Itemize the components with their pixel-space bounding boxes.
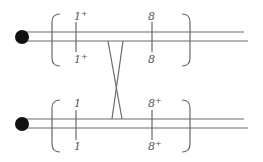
top-source-dot-icon — [15, 30, 29, 44]
top-right-bracket — [182, 14, 190, 66]
exchange-line-a — [108, 41, 122, 119]
top-left-bracket — [52, 14, 60, 66]
top-left-upper-label: 1+ — [74, 9, 88, 23]
top-right-lower-label: 8 — [148, 53, 155, 66]
bottom-source-dot-icon — [15, 117, 29, 131]
bottom-left-lower-label: 1 — [74, 140, 81, 153]
top-right-upper-label: 8 — [148, 10, 155, 23]
bottom-right-lower-label: 8+ — [148, 139, 162, 153]
crossed-exchange-lines — [108, 41, 123, 119]
bottom-right-bracket — [182, 100, 190, 152]
feynman-diagram: 1+ 1+ 8 8 1 1 8+ 8+ — [0, 0, 263, 162]
bottom-left-bracket — [52, 100, 60, 152]
top-track: 1+ 1+ 8 8 — [15, 9, 248, 66]
bottom-left-upper-label: 1 — [74, 97, 81, 110]
bottom-track: 1 1 8+ 8+ — [15, 96, 248, 153]
top-left-lower-label: 1+ — [74, 52, 88, 66]
bottom-right-upper-label: 8+ — [148, 96, 162, 110]
exchange-line-b — [112, 41, 123, 119]
